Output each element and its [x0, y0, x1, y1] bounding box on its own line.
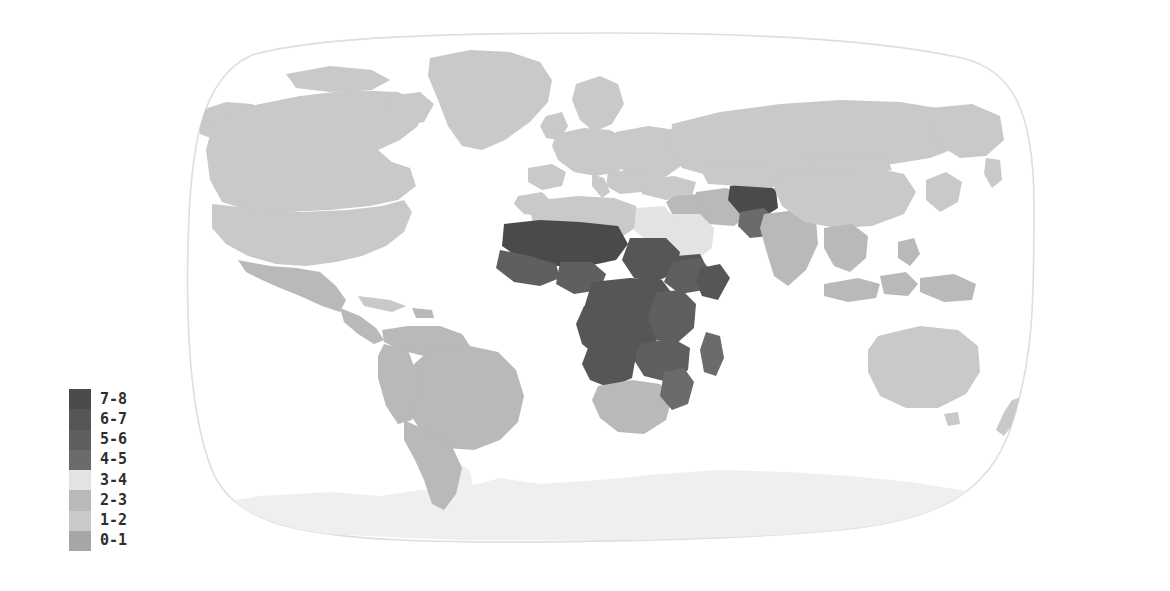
legend-label-3-4: 3-4 — [100, 470, 127, 490]
legend-swatch-5-6 — [69, 430, 91, 450]
legend-label-0-1: 0-1 — [100, 531, 127, 551]
world-fertility-map-figure: 7-8 6-7 5-6 4-5 3-4 2-3 1-2 0-1 — [0, 0, 1170, 591]
legend-swatch-7-8 — [69, 389, 91, 409]
legend-label-6-7: 6-7 — [100, 409, 127, 429]
legend-swatch-3-4 — [69, 470, 91, 490]
legend-labels: 7-8 6-7 5-6 4-5 3-4 2-3 1-2 0-1 — [100, 389, 127, 551]
legend-swatch-2-3 — [69, 490, 91, 510]
legend-swatch-1-2 — [69, 511, 91, 531]
world-map-svg — [0, 0, 1170, 591]
legend-label-5-6: 5-6 — [100, 430, 127, 450]
legend-label-2-3: 2-3 — [100, 490, 127, 510]
legend-swatch-6-7 — [69, 409, 91, 429]
legend-swatch-0-1 — [69, 531, 91, 551]
fertility-rate-legend: 7-8 6-7 5-6 4-5 3-4 2-3 1-2 0-1 — [69, 389, 127, 551]
legend-label-1-2: 1-2 — [100, 511, 127, 531]
legend-swatch-4-5 — [69, 450, 91, 470]
legend-colorbar — [69, 389, 91, 551]
legend-label-4-5: 4-5 — [100, 450, 127, 470]
legend-label-7-8: 7-8 — [100, 389, 127, 409]
map-canvas — [0, 0, 1170, 591]
